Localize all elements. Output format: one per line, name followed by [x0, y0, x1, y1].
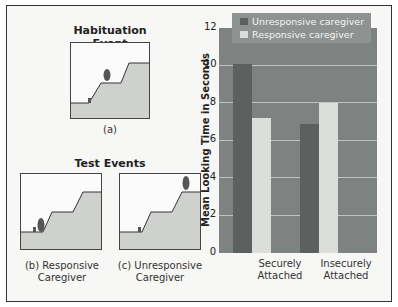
legend-item-responsive: Responsive caregiver [240, 29, 354, 40]
unresponsive-caption: (c) Unresponsive Caregiver [110, 260, 210, 284]
y-tick: 12 [204, 21, 216, 32]
legend-item-unresponsive: Unresponsive caregiver [240, 16, 364, 27]
x-label-insecurely-line1: Insecurely [311, 258, 381, 270]
test-events-title: Test Events [60, 157, 160, 170]
bar-insecurely-unresponsive [300, 124, 319, 253]
y-axis-label: Mean Looking Time in Seconds [200, 53, 211, 227]
y-tick: 0 [204, 246, 216, 257]
responsive-swatch-icon [240, 31, 248, 38]
unresponsive-panel [119, 173, 201, 250]
habituation-panel [70, 42, 150, 119]
unresponsive-swatch-icon [240, 18, 248, 25]
habituation-caption: (a) [95, 124, 125, 136]
chart-legend: Unresponsive caregiver Responsive caregi… [232, 13, 371, 43]
slope-scene-unresponsive-icon [120, 174, 200, 249]
unresponsive-caption-line2: Caregiver [110, 272, 210, 284]
bar-insecurely-responsive [319, 103, 338, 253]
chart-plot-area [219, 28, 377, 253]
unresponsive-caption-line1: (c) Unresponsive [110, 260, 210, 272]
x-label-insecurely-line2: Attached [311, 270, 381, 282]
x-label-securely: Securely Attached [245, 258, 315, 282]
responsive-caption: (b) Responsive Caregiver [12, 260, 112, 284]
responsive-caption-line2: Caregiver [12, 272, 112, 284]
x-label-insecurely: Insecurely Attached [311, 258, 381, 282]
responsive-caption-line1: (b) Responsive [12, 260, 112, 272]
bar-securely-unresponsive [233, 64, 252, 253]
responsive-panel [20, 173, 102, 250]
bar-securely-responsive [252, 118, 271, 253]
slope-scene-icon [71, 43, 149, 118]
legend-label-responsive: Responsive caregiver [252, 29, 354, 40]
slope-scene-responsive-icon [21, 174, 101, 249]
x-label-securely-line1: Securely [245, 258, 315, 270]
legend-label-unresponsive: Unresponsive caregiver [252, 16, 364, 27]
x-label-securely-line2: Attached [245, 270, 315, 282]
